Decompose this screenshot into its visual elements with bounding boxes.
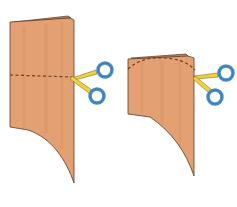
scissors-icon — [70, 63, 112, 103]
folded-paper-step-1 — [10, 16, 74, 183]
paper-cutting-illustration — [0, 0, 237, 207]
scissors-icon — [193, 66, 233, 104]
folded-paper-step-2 — [128, 54, 195, 176]
